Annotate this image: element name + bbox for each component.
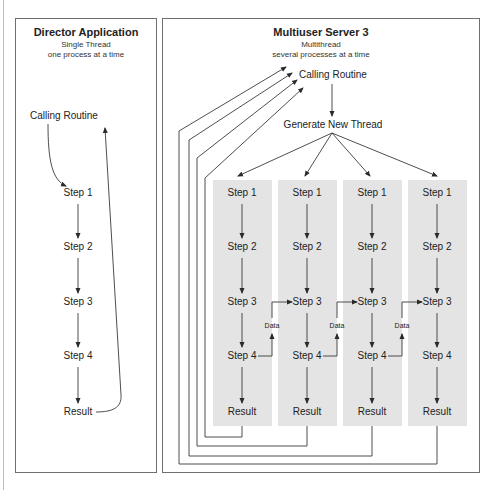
data-path-1-to-2 bbox=[258, 334, 272, 356]
fork-arrow-3 bbox=[332, 133, 370, 176]
data-path-1-to-2-top bbox=[272, 302, 292, 318]
fork-arrow-1 bbox=[238, 133, 332, 176]
data-path-3-to-4 bbox=[388, 334, 402, 356]
return-path-thread-3 bbox=[189, 73, 372, 456]
data-path-2-to-3-top bbox=[337, 302, 357, 318]
director-return-arrow bbox=[96, 128, 121, 412]
connector-lines bbox=[0, 0, 502, 490]
data-path-3-to-4-top bbox=[402, 302, 422, 318]
director-arrow-calling-to-step1 bbox=[48, 124, 66, 186]
return-path-thread-4 bbox=[179, 67, 437, 464]
data-path-2-to-3 bbox=[323, 334, 337, 356]
fork-arrow-4 bbox=[332, 133, 437, 176]
